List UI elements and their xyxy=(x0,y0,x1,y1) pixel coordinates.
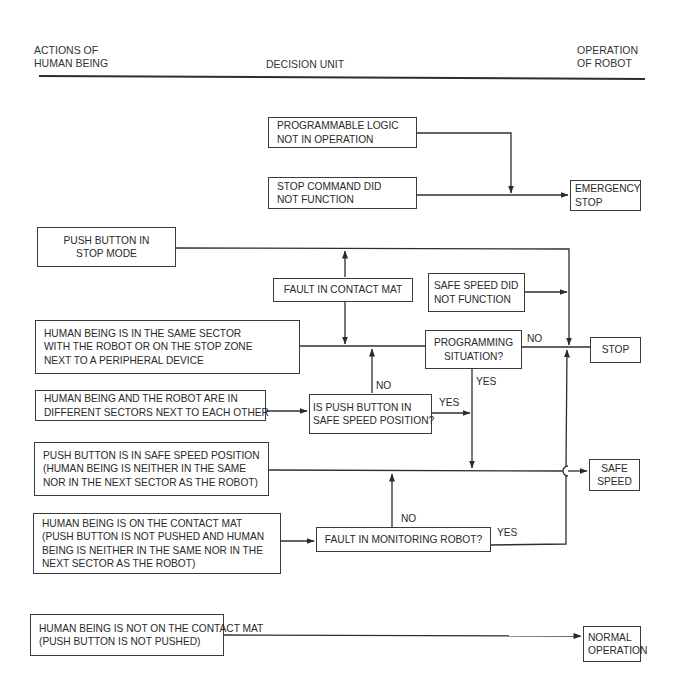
node-normal-operation: NORMAL OPERATION xyxy=(583,626,641,662)
node-is-push-button-safe-speed: IS PUSH BUTTON IN SAFE SPEED POSITION? xyxy=(309,394,432,434)
header-rule xyxy=(39,76,645,79)
node-fault-contact-mat: FAULT IN CONTACT MAT xyxy=(273,278,413,302)
label-push-button-no: NO xyxy=(376,380,391,391)
node-on-contact-mat: HUMAN BEING IS ON THE CONTACT MAT (PUSH … xyxy=(33,513,281,574)
node-stop-command: STOP COMMAND DID NOT FUNCTION xyxy=(268,177,417,209)
edge-not-on-contact-mat xyxy=(223,635,581,636)
node-push-button-stop-mode: PUSH BUTTON IN STOP MODE xyxy=(37,227,176,267)
node-not-on-contact-mat: HUMAN BEING IS NOT ON THE CONTACT MAT (P… xyxy=(30,614,224,656)
label-push-button-yes: YES xyxy=(439,397,459,408)
edge-programmable-logic xyxy=(416,133,511,193)
node-safe-speed-position: PUSH BUTTON IS IN SAFE SPEED POSITION (H… xyxy=(34,442,269,496)
edge-safe-speed-position xyxy=(268,466,568,476)
node-safe-speed: SAFE SPEED xyxy=(589,459,640,491)
label-programming-yes: YES xyxy=(476,376,496,387)
node-programmable-logic: PROGRAMMABLE LOGIC NOT IN OPERATION xyxy=(268,117,417,148)
label-programming-no: NO xyxy=(527,333,542,344)
node-different-sectors: HUMAN BEING AND THE ROBOT ARE IN DIFFERE… xyxy=(35,390,266,421)
node-stop: STOP xyxy=(590,337,641,363)
label-monitoring-no: NO xyxy=(401,513,416,524)
node-emergency-stop: EMERGENCY STOP xyxy=(570,180,641,211)
label-monitoring-yes: YES xyxy=(497,527,517,538)
node-programming-situation: PROGRAMMING SITUATION? xyxy=(425,330,522,369)
node-fault-monitoring-robot: FAULT IN MONITORING ROBOT? xyxy=(316,527,491,552)
node-human-same-sector: HUMAN BEING IS IN THE SAME SECTOR WITH T… xyxy=(35,320,300,374)
node-safe-speed-did-not-function: SAFE SPEED DID NOT FUNCTION xyxy=(428,273,525,312)
